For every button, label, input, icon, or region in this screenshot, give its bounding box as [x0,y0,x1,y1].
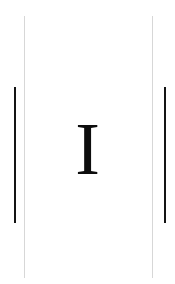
page-canvas: I [0,0,175,284]
vertical-rule-thin-right [152,16,153,278]
center-letter-glyph: I [0,112,175,186]
vertical-rule-thick-right [164,87,166,223]
